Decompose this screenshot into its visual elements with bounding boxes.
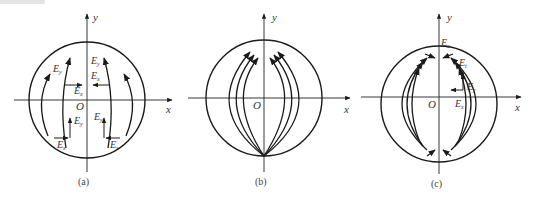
panel-a: y x O Ey Ey Ex Ex Ey Ey Ex Ex (a) <box>0 0 178 205</box>
panel-b: y x O (b) <box>180 0 358 205</box>
panel-a-diagram <box>0 0 178 205</box>
panel-caption-c: (c) <box>431 178 442 189</box>
panel-caption-b: (b) <box>255 176 267 187</box>
x-axis-label: x <box>515 102 520 113</box>
origin-label: O <box>253 100 261 111</box>
field-label-ex: Ex <box>57 140 66 151</box>
field-label-ey: Ey <box>91 56 100 67</box>
field-label-ey: Ey <box>74 116 83 127</box>
field-label-ex: Ex <box>455 99 464 110</box>
field-label-ex: Ex <box>110 140 119 151</box>
field-label-et: Et <box>459 58 467 69</box>
panel-c-diagram <box>355 0 533 205</box>
panel-b-diagram <box>180 0 358 205</box>
field-label-ey: Ey <box>467 82 476 93</box>
field-label-ex: Ex <box>91 71 100 82</box>
x-axis-label: x <box>344 104 349 115</box>
field-label-ey: Ey <box>94 112 103 123</box>
field-label-ex: Ex <box>74 86 83 97</box>
y-axis-label: y <box>447 12 452 23</box>
y-axis-label: y <box>272 12 277 23</box>
field-label-ex: Ex <box>441 38 450 49</box>
x-axis-label: x <box>166 104 171 115</box>
y-axis-label: y <box>93 12 98 23</box>
panel-caption-a: (a) <box>78 176 89 187</box>
origin-label: O <box>428 99 436 110</box>
origin-label: O <box>76 101 84 112</box>
panel-c: y x O Ex Et Ey Ex (c) <box>355 0 533 205</box>
field-label-ey: Ey <box>53 64 62 75</box>
